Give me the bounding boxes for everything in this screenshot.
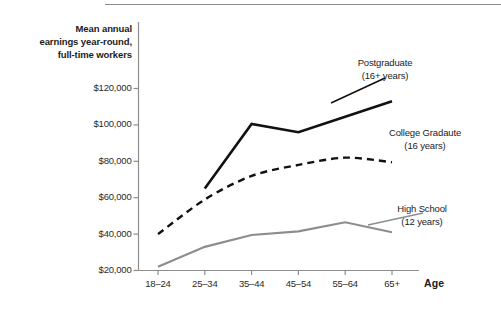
x-tick-label: 65+ [362, 278, 422, 289]
y-tick-label: $40,000 [60, 228, 132, 239]
series-label-postgraduate-line-1: Postgraduate [358, 57, 413, 68]
series-label-college-graduate-line-2: (16 years) [389, 140, 461, 153]
series-label-college-graduate: College Gradaute (16 years) [389, 127, 461, 152]
series-label-postgraduate-line-2: (16+ years) [358, 70, 413, 83]
y-tick-label: $20,000 [60, 264, 132, 275]
chart-figure: Mean annual earnings year-round, full-ti… [0, 0, 501, 315]
series-label-high-school-line-2: (12 years) [397, 216, 447, 229]
series-line-college-gradaute [158, 158, 392, 234]
y-tick-label: $120,000 [60, 82, 132, 93]
x-axis-title: Age [424, 277, 444, 289]
data-series-group [158, 101, 392, 267]
y-tick-label: $80,000 [60, 155, 132, 166]
series-line-high-school [158, 222, 392, 267]
series-label-postgraduate: Postgraduate (16+ years) [358, 57, 413, 82]
series-label-high-school: High School (12 years) [397, 203, 447, 228]
y-tick-label: $100,000 [60, 118, 132, 129]
series-label-high-school-line-1: High School [397, 203, 447, 214]
axis-ticks [134, 89, 393, 276]
y-tick-label: $60,000 [60, 191, 132, 202]
series-line-postgraduate [205, 101, 392, 188]
series-label-college-graduate-line-1: College Gradaute [389, 127, 461, 138]
